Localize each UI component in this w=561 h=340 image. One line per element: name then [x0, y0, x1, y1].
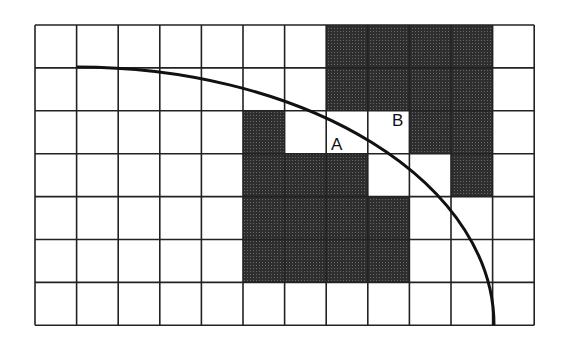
- shaded-cell: [451, 154, 493, 197]
- shaded-cell: [326, 68, 368, 111]
- shaded-cell: [409, 25, 451, 68]
- shaded-cell: [326, 197, 368, 240]
- shaded-cell: [368, 240, 410, 283]
- shaded-cell: [285, 197, 327, 240]
- shaded-cell: [368, 68, 410, 111]
- shaded-cell: [326, 154, 368, 197]
- shaded-cell: [451, 68, 493, 111]
- shaded-cell: [368, 25, 410, 68]
- shaded-cell: [243, 111, 285, 154]
- shaded-cell: [243, 154, 285, 197]
- shaded-cell: [368, 197, 410, 240]
- shaded-cell: [409, 68, 451, 111]
- shaded-cell: [326, 25, 368, 68]
- point-label-b: B: [392, 111, 403, 130]
- shaded-cell: [285, 154, 327, 197]
- shaded-cell: [451, 25, 493, 68]
- shaded-cell: [451, 111, 493, 154]
- grid-diagram: A B: [0, 0, 561, 340]
- shaded-cell: [243, 197, 285, 240]
- point-label-a: A: [331, 135, 343, 154]
- shaded-cell: [243, 240, 285, 283]
- shaded-cell: [326, 240, 368, 283]
- shaded-cell: [285, 240, 327, 283]
- shaded-cell: [409, 111, 451, 154]
